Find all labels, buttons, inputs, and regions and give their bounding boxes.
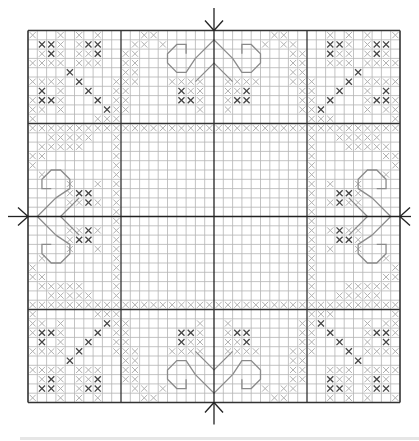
cross-stitch [113,190,119,196]
cross-stitch [132,69,138,75]
cross-stitch [244,88,250,94]
cross-stitch [374,302,380,308]
cross-stitch [225,107,231,113]
cross-stitch [299,51,305,57]
cross-stitch [30,265,36,271]
cross-stitch [113,116,119,122]
cross-stitch [76,237,82,243]
cross-stitch [95,41,101,47]
cross-stitch [58,134,64,140]
cross-stitch [262,386,268,392]
cross-stitch [392,311,398,317]
cross-stitch [113,88,119,94]
cross-stitch [197,320,203,326]
cross-stitch [76,395,82,401]
cross-stitch [113,200,119,206]
cross-stitch [58,32,64,38]
cross-stitch [392,320,398,326]
cross-stitch [244,348,250,354]
cross-stitch [337,41,343,47]
cross-stitch [318,302,324,308]
cross-stitch [104,116,110,122]
cross-stitch [374,51,380,57]
cross-stitch [299,376,305,382]
cross-stitch [309,246,315,252]
cross-stitch [253,125,259,131]
cross-stitch [290,60,296,66]
cross-stitch [48,144,54,150]
cross-stitch [364,60,370,66]
cross-stitch [383,330,389,336]
cross-stitch [244,330,250,336]
cross-stitch [364,376,370,382]
cross-stitch [30,79,36,85]
cross-stitch [327,227,333,233]
cross-stitch [383,153,389,159]
cross-stitch [364,107,370,113]
cross-stitch [392,79,398,85]
cross-stitch [58,60,64,66]
cross-stitch [234,302,240,308]
cross-stitch [123,302,129,308]
cross-stitch [327,32,333,38]
cross-stitch [299,358,305,364]
cross-stitch [374,60,380,66]
cross-stitch [299,107,305,113]
cross-stitch [346,376,352,382]
cross-stitch [76,386,82,392]
cross-stitch [76,51,82,57]
cross-stitch [346,60,352,66]
cross-stitch [39,348,45,354]
cross-stitch [48,302,54,308]
cross-stitch [327,181,333,187]
cross-stitch [76,302,82,308]
cross-stitch [392,32,398,38]
cross-stitch [95,97,101,103]
cross-stitch [299,339,305,345]
cross-stitch [281,32,287,38]
cross-stitch [123,320,129,326]
cross-stitch [327,376,333,382]
cross-stitch [132,376,138,382]
cross-stitch [346,51,352,57]
cross-stitch [39,60,45,66]
cross-stitch [30,274,36,280]
cross-stitch [30,320,36,326]
cross-stitch [123,88,129,94]
cross-stitch [290,79,296,85]
cross-stitch [309,172,315,178]
cross-stitch [178,339,184,345]
cross-stitch [113,265,119,271]
cross-stitch [58,330,64,336]
cross-stitch [30,153,36,159]
cross-stitch [271,395,277,401]
cross-stitch [76,32,82,38]
cross-stitch [30,125,36,131]
cross-stitch [309,134,315,140]
cross-stitch [48,283,54,289]
cross-stitch [206,302,212,308]
cross-stitch [48,376,54,382]
cross-stitch [85,302,91,308]
cross-stitch [141,32,147,38]
cross-stitch [299,302,305,308]
cross-stitch [104,125,110,131]
cross-stitch [141,386,147,392]
cross-stitch [85,386,91,392]
cross-stitch [95,116,101,122]
cross-stitch [327,302,333,308]
cross-stitch [318,311,324,317]
cross-stitch [113,339,119,345]
cross-stitch [132,302,138,308]
cross-stitch [374,293,380,299]
cross-stitch [85,227,91,233]
cross-stitch [141,125,147,131]
cross-stitch [392,60,398,66]
cross-stitch [364,88,370,94]
cross-stitch [383,339,389,345]
cross-stitch [364,386,370,392]
cross-stitch [309,339,315,345]
cross-stitch [225,320,231,326]
cross-stitch [364,283,370,289]
cross-stitch [262,302,268,308]
